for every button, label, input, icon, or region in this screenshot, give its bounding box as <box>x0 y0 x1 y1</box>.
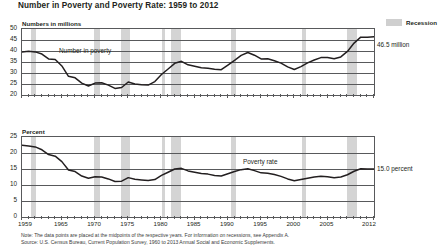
x-tick <box>260 94 261 98</box>
x-tick <box>167 94 168 97</box>
x-tick <box>174 94 175 97</box>
x-tick <box>81 94 82 97</box>
x-tick <box>87 94 88 97</box>
x-tick <box>346 216 347 219</box>
x-tick <box>234 94 235 97</box>
bottom-chart-plot-area <box>21 136 375 218</box>
x-tick <box>234 216 235 219</box>
x-tick <box>353 94 354 97</box>
x-tick <box>247 94 248 97</box>
x-tick <box>280 94 281 97</box>
y-tick-label: 15 <box>1 165 17 171</box>
x-tick <box>134 94 135 97</box>
y-tick-label: 0 <box>1 213 17 219</box>
y-tick-label: 35 <box>1 58 17 64</box>
x-tick <box>48 216 49 219</box>
x-tick-label: 1990 <box>220 220 234 227</box>
x-tick <box>167 216 168 219</box>
x-tick <box>41 216 42 219</box>
chart-note: Note: The data points are placed at the … <box>21 232 289 239</box>
x-tick <box>200 216 201 219</box>
x-tick <box>360 216 361 219</box>
x-tick <box>366 216 367 219</box>
x-tick <box>121 94 122 97</box>
bottom-chart-y-axis-title: Percent <box>22 128 45 135</box>
x-tick <box>333 216 334 219</box>
x-tick <box>313 216 314 219</box>
x-tick <box>320 216 321 219</box>
x-tick-label: 1959 <box>18 220 32 227</box>
x-tick <box>107 94 108 97</box>
x-tick <box>28 216 29 219</box>
x-tick <box>333 94 334 97</box>
x-tick <box>360 94 361 97</box>
x-tick <box>287 216 288 219</box>
x-tick <box>327 94 328 98</box>
y-tick-label: 20 <box>1 149 17 155</box>
x-tick <box>253 94 254 97</box>
x-tick <box>194 94 195 98</box>
x-tick <box>94 94 95 98</box>
bottom-chart-end-annotation: 15.0 percent <box>377 165 413 172</box>
x-tick <box>366 94 367 97</box>
x-tick <box>287 94 288 97</box>
x-tick <box>214 216 215 219</box>
x-tick <box>48 94 49 97</box>
x-tick <box>313 94 314 97</box>
x-tick <box>307 216 308 219</box>
x-tick-label: 1975 <box>120 220 134 227</box>
x-tick <box>267 94 268 97</box>
x-tick-label: 1980 <box>154 220 168 227</box>
chart-source: Source: U.S. Census Bureau, Current Popu… <box>21 239 275 246</box>
y-tick-label: 20 <box>1 91 17 97</box>
x-tick <box>353 216 354 219</box>
x-tick <box>154 94 155 97</box>
x-tick <box>240 216 241 219</box>
top-chart-plot-area <box>21 28 375 96</box>
x-tick <box>340 94 341 97</box>
x-tick <box>21 94 22 98</box>
x-tick <box>187 94 188 97</box>
x-tick <box>54 94 55 97</box>
x-tick <box>87 216 88 219</box>
x-tick <box>114 94 115 97</box>
x-tick <box>253 216 254 219</box>
y-tick-label: 45 <box>1 36 17 42</box>
y-tick-label: 50 <box>1 25 17 31</box>
top-chart-x-ticks <box>21 94 373 98</box>
y-tick-label: 40 <box>1 47 17 53</box>
x-tick <box>41 94 42 97</box>
x-tick <box>54 216 55 219</box>
x-tick <box>174 216 175 219</box>
top-chart-series-label: Number in poverty <box>59 47 111 54</box>
legend-label-recession: Recession <box>406 19 437 26</box>
x-tick <box>141 216 142 219</box>
x-tick <box>107 216 108 219</box>
x-tick <box>227 94 228 98</box>
bottom-chart-series-label: Poverty rate <box>243 158 277 165</box>
x-tick <box>101 94 102 97</box>
x-tick <box>207 94 208 97</box>
x-tick <box>240 94 241 97</box>
x-tick <box>81 216 82 219</box>
x-tick <box>340 216 341 219</box>
x-tick <box>207 216 208 219</box>
top-chart-y-axis-title: Numbers in millions <box>22 20 81 27</box>
y-tick-label: 10 <box>1 181 17 187</box>
x-tick <box>134 216 135 219</box>
x-tick <box>127 94 128 98</box>
top-chart-series-line <box>22 29 374 95</box>
x-tick <box>346 94 347 97</box>
x-tick <box>114 216 115 219</box>
x-tick <box>300 94 301 97</box>
x-tick <box>154 216 155 219</box>
x-tick-label: 1985 <box>187 220 201 227</box>
y-tick-label: 30 <box>1 69 17 75</box>
x-tick <box>180 216 181 219</box>
x-tick-label: 2005 <box>320 220 334 227</box>
x-tick <box>300 216 301 219</box>
x-tick-label: 2000 <box>286 220 300 227</box>
x-tick <box>121 216 122 219</box>
x-tick <box>267 216 268 219</box>
x-tick <box>101 216 102 219</box>
